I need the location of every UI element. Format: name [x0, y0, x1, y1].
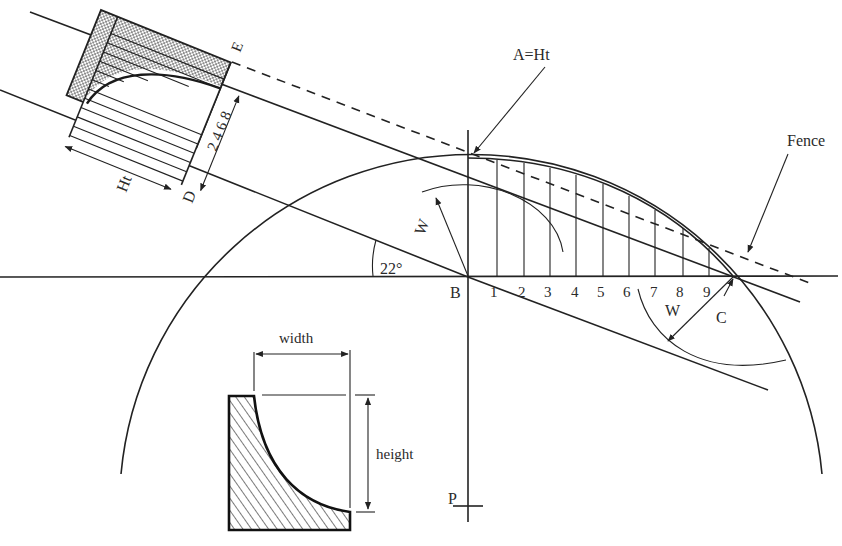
w-arc-lower — [638, 289, 786, 365]
label-p: P — [448, 490, 457, 507]
cove-section — [229, 396, 350, 530]
tick-4: 4 — [571, 284, 579, 300]
label-e: E — [228, 40, 246, 54]
w-arc-upper — [422, 185, 563, 252]
diagram-canvas: A=Ht Fence B C P 22° W W 1 2 3 4 5 6 7 8… — [0, 0, 842, 546]
label-w-lower: W — [665, 302, 681, 319]
tick-3: 3 — [544, 284, 552, 300]
inset-profile — [229, 350, 375, 530]
label-width: width — [279, 330, 314, 346]
label-ht: Ht — [113, 172, 135, 194]
label-fence: Fence — [787, 132, 825, 149]
construction-diagram: A=Ht Fence B C P 22° W W 1 2 3 4 5 6 7 8… — [0, 0, 842, 546]
inclined-line-through-b — [0, 90, 468, 277]
label-d: D — [179, 188, 199, 205]
label-a: A=Ht — [513, 46, 550, 63]
fence-leader — [748, 154, 788, 252]
ordinate-lines — [497, 160, 709, 276]
tick-1: 1 — [490, 284, 498, 300]
tick-7: 7 — [650, 284, 658, 300]
ellipse-curve — [468, 158, 733, 276]
w-arrow-upper — [436, 198, 468, 276]
a-leader — [474, 67, 545, 153]
tick-2: 2 — [518, 284, 526, 300]
tick-5: 5 — [597, 284, 605, 300]
tick-8: 8 — [676, 284, 684, 300]
label-b: B — [450, 284, 461, 301]
ordinate-layout-block — [49, 10, 250, 200]
label-height: height — [376, 446, 414, 462]
angle-arc — [372, 240, 376, 276]
baseline — [0, 276, 838, 277]
tick-6: 6 — [623, 284, 631, 300]
label-angle: 22° — [380, 260, 402, 277]
tick-9: 9 — [703, 284, 711, 300]
label-w-upper: W — [411, 216, 433, 237]
label-c: C — [716, 309, 727, 326]
inclined-line-lower — [468, 277, 768, 390]
baseline-numbers: 1 2 3 4 5 6 7 8 9 — [490, 284, 711, 300]
